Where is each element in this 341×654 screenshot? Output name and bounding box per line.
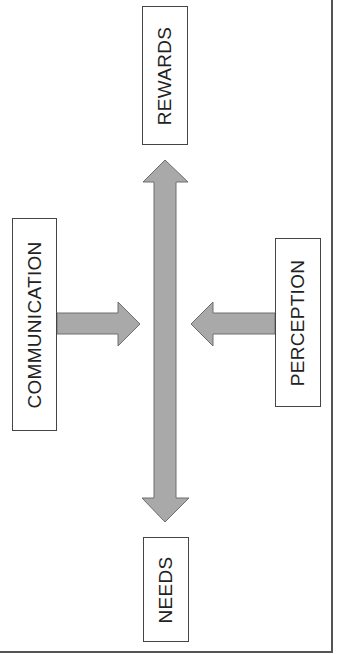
node-perception-label: PERCEPTION [287, 259, 309, 386]
node-needs: NEEDS [143, 537, 189, 642]
node-communication: COMMUNICATION [12, 218, 57, 431]
double-arrow-needs-rewards [142, 160, 189, 522]
node-needs-label: NEEDS [155, 556, 177, 623]
arrow-communication-to-axis [57, 302, 140, 346]
arrow-perception-to-axis [191, 302, 275, 346]
node-rewards: REWARDS [142, 6, 188, 145]
node-perception: PERCEPTION [275, 238, 321, 407]
node-communication-label: COMMUNICATION [24, 241, 46, 408]
node-rewards-label: REWARDS [154, 26, 176, 125]
